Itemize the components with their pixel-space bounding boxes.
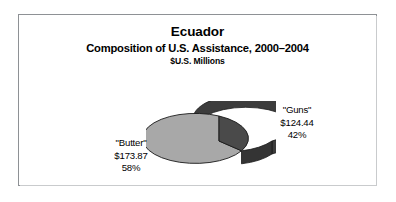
guns-slice-label: "Guns" $124.44 42%	[253, 104, 341, 142]
butter-slice-label: "Butter" $173.87 58%	[87, 137, 175, 175]
butter-label-percent: 58%	[87, 162, 175, 175]
butter-label-value: $173.87	[87, 150, 175, 163]
title-block: Ecuador Composition of U.S. Assistance, …	[19, 24, 376, 67]
chart-subtitle: Composition of U.S. Assistance, 2000–200…	[19, 41, 376, 55]
guns-label-percent: 42%	[253, 129, 341, 142]
guns-label-name: "Guns"	[253, 104, 341, 117]
chart-screenshot: Ecuador Composition of U.S. Assistance, …	[0, 0, 396, 202]
chart-frame: Ecuador Composition of U.S. Assistance, …	[18, 14, 377, 186]
butter-label-name: "Butter"	[87, 137, 175, 150]
guns-label-value: $124.44	[253, 117, 341, 130]
chart-title: Ecuador	[19, 24, 376, 39]
chart-units-label: $U.S. Millions	[19, 56, 376, 67]
